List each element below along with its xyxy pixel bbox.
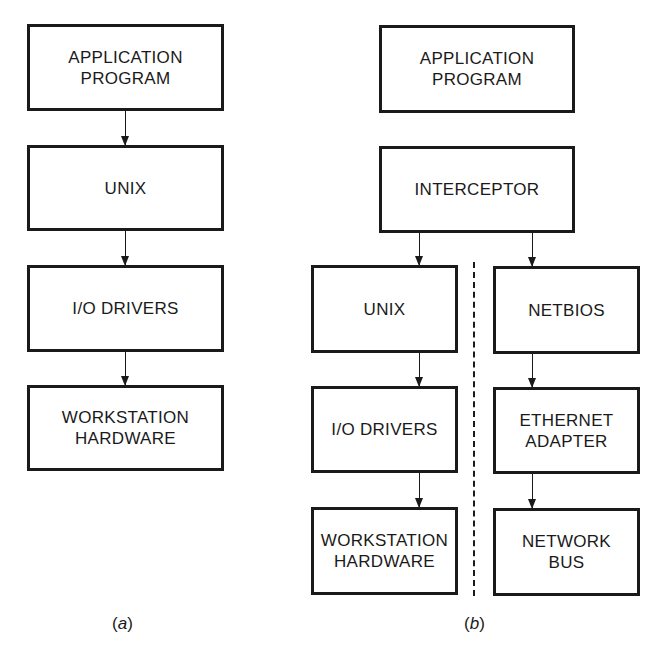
b-unix-box: UNIX xyxy=(311,265,458,353)
b-application-program-label: APPLICATION PROGRAM xyxy=(420,48,534,90)
a-arrow-3 xyxy=(125,352,126,385)
a-workstation-hardware-label: WORKSTATION HARDWARE xyxy=(62,407,189,449)
b-netbios-box: NETBIOS xyxy=(493,266,640,354)
a-io-drivers-label: I/O DRIVERS xyxy=(72,298,178,319)
a-unix-box: UNIX xyxy=(27,145,224,231)
a-application-program-box: APPLICATION PROGRAM xyxy=(27,24,224,111)
a-caption-text: (a) xyxy=(112,614,133,633)
b-arrow-interceptor-netbios xyxy=(532,233,533,266)
a-workstation-hardware-box: WORKSTATION HARDWARE xyxy=(27,385,224,471)
a-io-drivers-box: I/O DRIVERS xyxy=(27,265,224,352)
b-workstation-hardware-box: WORKSTATION HARDWARE xyxy=(311,507,458,595)
b-arrow-io-workstation xyxy=(419,473,420,507)
a-unix-label: UNIX xyxy=(105,178,147,199)
b-network-bus-label: NETWORK BUS xyxy=(522,531,611,573)
b-arrow-unix-io xyxy=(419,353,420,386)
b-unix-label: UNIX xyxy=(364,299,406,320)
b-arrow-netbios-ethernet xyxy=(532,354,533,387)
a-arrow-1 xyxy=(125,111,126,145)
b-io-drivers-box: I/O DRIVERS xyxy=(311,386,458,473)
b-arrow-ethernet-network xyxy=(532,474,533,508)
a-caption: (a) xyxy=(112,614,133,634)
b-ethernet-adapter-box: ETHERNET ADAPTER xyxy=(493,387,640,474)
b-caption-text: (b) xyxy=(464,614,485,633)
b-workstation-hardware-label: WORKSTATION HARDWARE xyxy=(321,530,448,572)
b-application-program-box: APPLICATION PROGRAM xyxy=(379,25,575,113)
b-caption: (b) xyxy=(464,614,485,634)
b-arrow-interceptor-unix xyxy=(419,233,420,265)
dashed-divider xyxy=(473,262,475,596)
b-interceptor-box: INTERCEPTOR xyxy=(379,146,575,233)
a-application-program-label: APPLICATION PROGRAM xyxy=(68,47,182,89)
b-network-bus-box: NETWORK BUS xyxy=(493,508,640,596)
b-io-drivers-label: I/O DRIVERS xyxy=(331,419,437,440)
b-netbios-label: NETBIOS xyxy=(528,300,605,321)
b-ethernet-adapter-label: ETHERNET ADAPTER xyxy=(519,410,613,452)
b-interceptor-label: INTERCEPTOR xyxy=(415,179,540,200)
a-arrow-2 xyxy=(125,231,126,265)
